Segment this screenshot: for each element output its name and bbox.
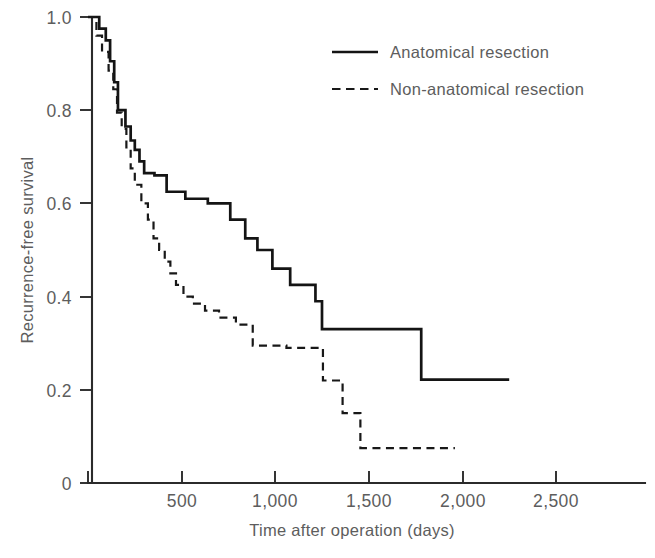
y-tick-label: 0.2: [46, 381, 72, 401]
legend-item-label: Anatomical resection: [390, 43, 549, 61]
series-line-anatomical-resection: [88, 17, 509, 380]
legend-item-label: Non-anatomical resection: [390, 80, 584, 98]
y-tick-label: 0: [62, 474, 72, 494]
x-tick-label: 500: [167, 491, 197, 511]
x-tick-labels: 500 1,000 1,500 2,000 2,500: [167, 491, 579, 511]
y-axis-ticks: [80, 17, 92, 483]
x-axis-title: Time after operation (days): [249, 521, 455, 539]
y-tick-labels: 1.0 0.8 0.6 0.4 0.2 0: [46, 8, 72, 494]
x-tick-label: 2,000: [440, 491, 486, 511]
x-tick-label: 1,500: [346, 491, 392, 511]
y-tick-label: 0.4: [46, 288, 72, 308]
x-axis-ticks: [88, 471, 556, 483]
chart-legend: Anatomical resection Non-anatomical rese…: [332, 43, 584, 98]
y-tick-label: 0.6: [46, 194, 72, 214]
x-tick-label: 1,000: [252, 491, 298, 511]
y-tick-label: 1.0: [46, 8, 72, 28]
y-axis-title: Recurrence-free survival: [18, 157, 36, 344]
y-tick-label: 0.8: [46, 101, 72, 121]
chart-plot-area: 1.0 0.8 0.6 0.4 0.2 0 500 1,000 1,500 2,…: [0, 0, 655, 558]
survival-chart-figure: 1.0 0.8 0.6 0.4 0.2 0 500 1,000 1,500 2,…: [0, 0, 655, 558]
x-tick-label: 2,500: [533, 491, 579, 511]
